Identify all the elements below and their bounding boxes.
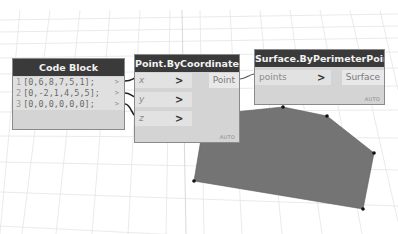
chevron-right-icon: >: [317, 70, 325, 85]
code-text[interactable]: [0,6,8,7,5,1];: [23, 77, 95, 87]
line-number: 3: [16, 99, 21, 109]
input-port-y[interactable]: y >: [135, 91, 239, 107]
chevron-right-icon: >: [175, 92, 183, 107]
code-line[interactable]: 2[0,-2,1,4,5,5]; >: [13, 88, 124, 99]
surface-by-perimeter-points-title: Surface.ByPerimeterPoints: [255, 50, 384, 67]
point-by-coordinates-node[interactable]: Point.ByCoordinates x > Point y > z > AU…: [134, 54, 240, 143]
output-port-marker[interactable]: >: [115, 77, 119, 88]
code-text[interactable]: [0,-2,1,4,5,5];: [23, 88, 100, 98]
port-label: y: [139, 94, 144, 104]
output-port-surface[interactable]: Surface: [342, 70, 384, 85]
line-number: 2: [16, 88, 21, 98]
port-label: z: [139, 113, 144, 123]
lacing-indicator[interactable]: AUTO: [365, 96, 380, 102]
port-label: Surface: [346, 72, 380, 82]
code-line[interactable]: 1[0,6,8,7,5,1]; >: [13, 77, 124, 88]
code-block-node[interactable]: Code Block 1[0,6,8,7,5,1]; > 2[0,-2,1,4,…: [12, 58, 125, 130]
output-port-marker[interactable]: >: [115, 99, 119, 110]
output-port-marker[interactable]: >: [115, 88, 119, 99]
input-port-x[interactable]: x > Point: [135, 72, 239, 88]
code-block-title: Code Block: [13, 59, 124, 76]
input-port-z[interactable]: z >: [135, 110, 239, 126]
chevron-right-icon: >: [175, 73, 183, 88]
port-label: Point: [213, 75, 235, 85]
line-number: 1: [16, 77, 21, 87]
surface-by-perimeter-points-node[interactable]: Surface.ByPerimeterPoints points > Surfa…: [254, 49, 385, 105]
lacing-indicator[interactable]: AUTO: [220, 134, 235, 140]
output-port-point[interactable]: Point: [209, 73, 239, 88]
port-label: points: [259, 72, 287, 82]
input-port-points[interactable]: points > Surface: [255, 69, 384, 85]
chevron-right-icon: >: [175, 111, 183, 126]
port-label: x: [139, 75, 144, 85]
code-line[interactable]: 3[0,0,0,0,0,0]; >: [13, 99, 124, 110]
wire-point-to-points: [240, 74, 254, 79]
point-by-coordinates-title: Point.ByCoordinates: [135, 55, 239, 72]
code-text[interactable]: [0,0,0,0,0,0];: [23, 99, 95, 109]
